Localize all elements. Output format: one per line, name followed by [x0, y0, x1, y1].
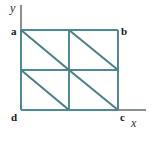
diagonal-top-right [69, 30, 118, 70]
axes-group [21, 5, 146, 110]
vertex-label-b: b [121, 26, 127, 37]
x-axis-label: x [131, 117, 136, 129]
vertex-label-d: d [11, 112, 17, 123]
diagonal-bottom-right [69, 70, 118, 110]
diagonal-bottom-left [21, 70, 69, 110]
diagonal-top-left [21, 30, 69, 70]
y-axis-label: y [10, 2, 15, 14]
vertex-label-a: a [11, 26, 17, 37]
vertex-label-c: c [120, 112, 125, 123]
geometry-figure: a b c d y x [0, 0, 159, 141]
